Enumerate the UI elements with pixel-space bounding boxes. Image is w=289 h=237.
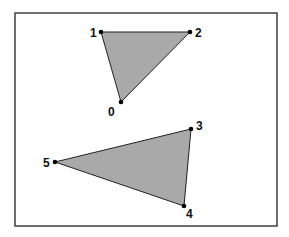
vertex-label-1: 1 (90, 26, 97, 40)
vertex-label-3: 3 (196, 119, 203, 133)
vertex-point-3 (189, 127, 194, 132)
vertex-label-2: 2 (195, 26, 202, 40)
vertex-label-5: 5 (43, 156, 50, 170)
vertex-point-5 (53, 160, 58, 165)
vertex-label-0: 0 (108, 105, 115, 119)
vertex-point-1 (99, 30, 104, 35)
vertex-point-0 (119, 100, 124, 105)
vertex-point-2 (188, 30, 193, 35)
vertex-label-4: 4 (186, 207, 193, 221)
triangle-diagram: 012345 (0, 0, 289, 237)
